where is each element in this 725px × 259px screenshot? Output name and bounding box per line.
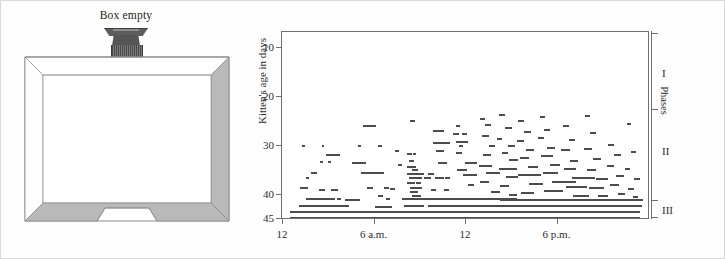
activity-bout-mark (410, 191, 418, 193)
activity-bout-mark (435, 177, 444, 179)
y-axis-tick (276, 194, 282, 195)
x-axis-tick-label: 12 (460, 229, 471, 240)
activity-bout-mark (541, 155, 553, 157)
phases-axis: IIIIII (651, 31, 652, 219)
y-axis-tick-label: 10 (263, 41, 274, 52)
activity-bout-mark (384, 187, 389, 189)
activity-bout-mark (468, 184, 474, 186)
activity-bout-mark (413, 153, 416, 155)
phase-label: II (662, 145, 669, 156)
open-box-perspective-drawing (23, 55, 231, 223)
activity-bout-mark (445, 177, 450, 179)
activity-bout-mark (540, 116, 545, 118)
activity-bout-mark (528, 166, 539, 168)
activity-bout-mark (628, 188, 634, 190)
activity-bout-mark (497, 138, 502, 140)
box-illustration-panel: Box empty (1, 1, 251, 259)
activity-bout-mark (631, 151, 636, 153)
activity-bout-mark (456, 141, 468, 143)
activity-bout-mark (345, 199, 360, 201)
activity-bout-mark (607, 165, 615, 167)
activity-bout-mark (306, 177, 309, 179)
x-axis-tick (282, 218, 283, 224)
activity-bout-mark (518, 174, 541, 176)
activity-bout-mark (543, 172, 558, 174)
activity-bout-mark (319, 189, 325, 191)
raster-marks-layer (282, 32, 648, 218)
activity-bout-mark (363, 125, 372, 127)
activity-bout-mark (302, 145, 305, 147)
fixture-plate-highlight (113, 29, 139, 31)
phase-axis-tick (651, 200, 658, 201)
activity-bout-mark (572, 177, 595, 179)
activity-bout-mark (413, 205, 424, 207)
activity-bout-mark (593, 158, 601, 160)
y-axis-tick-label: 20 (263, 90, 274, 101)
activity-bout-mark (374, 172, 385, 174)
activity-bout-mark (627, 205, 642, 207)
x-axis-tick-label: 6 a.m. (360, 229, 387, 240)
figure-container: Box empty (0, 0, 725, 259)
activity-bout-mark (433, 142, 442, 144)
activity-bout-mark (590, 132, 596, 134)
activity-bout-mark (412, 195, 421, 197)
activity-bout-mark (438, 162, 447, 164)
activity-bout-mark (589, 187, 604, 189)
activity-bout-mark (587, 169, 596, 171)
activity-bout-mark (378, 145, 382, 147)
activity-bout-mark (485, 124, 491, 126)
activity-bout-mark (598, 195, 609, 197)
activity-bout-mark (320, 161, 323, 163)
activity-bout-mark (563, 125, 569, 127)
activity-bout-mark (618, 193, 626, 195)
activity-bout-mark (550, 164, 559, 166)
activity-bout-mark (552, 181, 576, 183)
activity-bout-mark (462, 133, 467, 135)
activity-bout-mark (431, 189, 436, 191)
activity-bout-mark (300, 187, 308, 189)
activity-bout-mark (508, 145, 516, 147)
activity-bout-mark (367, 187, 372, 189)
y-axis-tick (276, 96, 282, 97)
activity-bout-mark (386, 198, 390, 200)
activity-bout-mark (314, 172, 317, 174)
activity-bout-mark (502, 152, 508, 154)
activity-bout-mark (506, 176, 518, 178)
activity-bout-mark (322, 145, 325, 147)
activity-bout-mark (625, 168, 630, 170)
activity-bout-mark (407, 166, 416, 168)
activity-bout-mark (509, 159, 518, 161)
activity-bout-mark (584, 148, 592, 150)
y-axis-tick-label: 40 (263, 188, 274, 199)
activity-bout-mark (561, 149, 570, 151)
activity-bout-mark (499, 168, 517, 170)
y-axis-tick-label: 30 (263, 139, 274, 150)
activity-bout-mark (375, 206, 392, 208)
activity-bout-mark (486, 172, 500, 174)
activity-bout-mark (409, 160, 414, 162)
activity-bout-mark (616, 175, 624, 177)
activity-bout-mark (634, 178, 640, 180)
activity-bout-mark (521, 192, 533, 194)
activity-bout-mark (480, 118, 485, 120)
activity-bout-mark (409, 177, 423, 179)
activity-bout-mark (627, 123, 632, 125)
activity-bout-mark (395, 150, 399, 152)
x-axis-tick (465, 218, 466, 224)
activity-bout-mark (509, 194, 517, 196)
activity-bout-mark (358, 145, 361, 147)
y-axis-tick-label: 45 (263, 213, 274, 224)
phase-axis-tick (651, 217, 658, 218)
activity-bout-mark (328, 161, 331, 163)
raster-plot-panel: Kitten's age in days Phases 1020304045 1… (239, 1, 725, 259)
phase-label: III (662, 204, 673, 215)
activity-bout-mark (290, 211, 641, 213)
phase-axis-tick (651, 33, 658, 34)
activity-bout-mark (465, 162, 477, 164)
activity-bout-mark (444, 189, 449, 191)
activity-bout-mark (526, 149, 534, 151)
y-axis-tick (276, 47, 282, 48)
activity-bout-mark (322, 198, 336, 200)
y-axis-tick (276, 145, 282, 146)
activity-bout-mark (573, 195, 588, 197)
